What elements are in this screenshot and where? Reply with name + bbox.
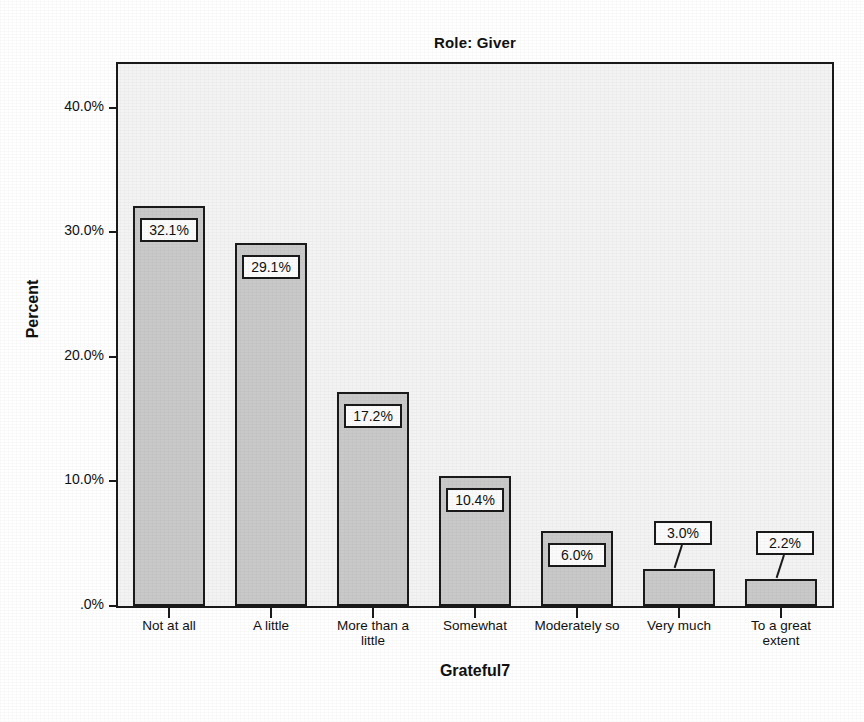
y-tick-label: 30.0% [14, 222, 104, 238]
x-axis-tick-label: A little [220, 618, 322, 633]
bar-value-label: 2.2% [756, 531, 814, 555]
x-tick-label-line: A little [220, 618, 322, 633]
x-axis-tick-mark [474, 608, 476, 618]
bar-value-label: 17.2% [344, 404, 402, 428]
y-tick-mark [109, 605, 118, 607]
y-tick-mark [109, 231, 118, 233]
x-axis-tick-label: Somewhat [424, 618, 526, 633]
plot-inner: .0%10.0%20.0%30.0%40.0%32.1%29.1%17.2%10… [118, 64, 832, 606]
x-tick-label-line: To a great [730, 618, 832, 633]
bar-chart-figure: Role: Giver Percent .0%10.0%20.0%30.0%40… [0, 0, 864, 722]
y-tick-label: .0% [14, 596, 104, 612]
x-tick-label-line: extent [730, 633, 832, 648]
x-axis-tick-label: Not at all [118, 618, 220, 633]
x-axis-tick-label: More than alittle [322, 618, 424, 648]
x-tick-label-line: Somewhat [424, 618, 526, 633]
bar[interactable] [643, 569, 715, 606]
x-axis-tick-mark [168, 608, 170, 618]
y-tick-label: 20.0% [14, 347, 104, 363]
x-tick-label-line: Very much [628, 618, 730, 633]
x-tick-label-line: little [322, 633, 424, 648]
bar-value-label: 10.4% [446, 488, 504, 512]
x-axis-tick-mark [678, 608, 680, 618]
y-tick-mark [109, 356, 118, 358]
bar-value-label: 32.1% [140, 218, 198, 242]
x-axis-tick-mark [780, 608, 782, 618]
bar[interactable] [133, 206, 205, 606]
y-tick-label: 40.0% [14, 98, 104, 114]
y-tick-mark [109, 107, 118, 109]
x-axis-tick-label: Moderately so [526, 618, 628, 633]
label-leader-line [776, 554, 785, 577]
bar-value-label: 29.1% [242, 255, 300, 279]
x-axis-tick-mark [270, 608, 272, 618]
plot-area: .0%10.0%20.0%30.0%40.0%32.1%29.1%17.2%10… [116, 62, 834, 608]
y-tick-label: 10.0% [14, 471, 104, 487]
x-axis-tick-mark [576, 608, 578, 618]
bar-value-label: 3.0% [654, 521, 712, 545]
x-axis-tick-mark [372, 608, 374, 618]
bar[interactable] [745, 579, 817, 606]
x-tick-label-line: Moderately so [526, 618, 628, 633]
x-tick-label-line: More than a [322, 618, 424, 633]
chart-title: Role: Giver [116, 34, 834, 51]
x-tick-label-line: Not at all [118, 618, 220, 633]
x-axis-tick-label: To a greatextent [730, 618, 832, 648]
y-tick-mark [109, 480, 118, 482]
x-axis-title: Grateful7 [116, 662, 834, 680]
label-leader-line [674, 544, 683, 567]
bar[interactable] [235, 243, 307, 606]
bar-value-label: 6.0% [548, 543, 606, 567]
x-axis-tick-label: Very much [628, 618, 730, 633]
